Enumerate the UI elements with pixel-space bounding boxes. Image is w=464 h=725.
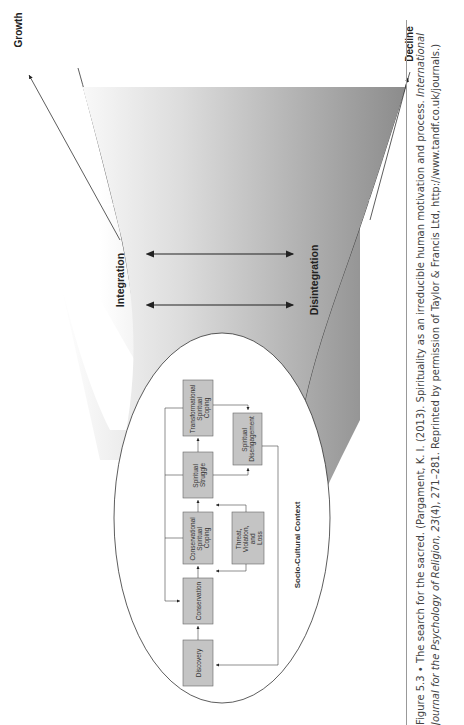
integration-label: Integration (114, 253, 126, 307)
caption-separator: • (415, 663, 426, 675)
caption-citation: (Pargament, K. I. (2013). Spirituality a… (415, 97, 426, 532)
context-label: Socio-Cultural Context (293, 501, 302, 588)
caption-issue-pages: (4), 271–281. Reprinted by permission of… (430, 44, 441, 519)
caption-figure-number: Figure 5.3 (415, 675, 426, 725)
box-discovery-label: Discovery (195, 648, 203, 677)
figure-caption: Figure 5.3 • The search for the sacred. … (406, 20, 464, 725)
box-spiritual-struggle-label: Spiritual Struggle (192, 462, 207, 487)
caption-title: The search for the sacred. (415, 532, 426, 663)
growth-label: Growth (13, 13, 24, 48)
figure-diagram: Growth Decline Integration Disintegratio… (0, 0, 464, 725)
disintegration-label: Disintegration (308, 245, 320, 316)
box-conservation-label: Conservation (195, 581, 202, 620)
